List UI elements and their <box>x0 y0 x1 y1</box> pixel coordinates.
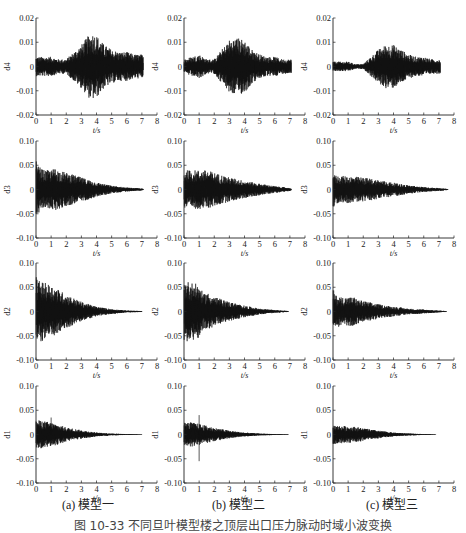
x-tick-label: 1 <box>197 361 201 371</box>
y-tick-label: 0 <box>178 430 182 440</box>
x-tick-label: 4 <box>94 239 99 249</box>
x-tick-label: 1 <box>346 116 350 126</box>
signal-trace <box>36 420 142 448</box>
x-tick-label: 5 <box>258 116 262 126</box>
x-axis-label: t/s <box>241 371 249 380</box>
x-tick-label: 6 <box>125 239 129 249</box>
x-tick-label: 0 <box>331 116 335 126</box>
x-tick-label: 6 <box>422 239 426 249</box>
x-tick-label: 1 <box>346 484 350 494</box>
signal-trace <box>184 423 288 447</box>
y-tick-label: -0.05 <box>16 209 34 219</box>
signal-trace <box>333 45 440 88</box>
y-tick-label: -0.05 <box>164 209 182 219</box>
x-tick-label: 4 <box>391 361 396 371</box>
x-tick-label: 5 <box>110 361 114 371</box>
x-tick-label: 4 <box>242 484 247 494</box>
y-tick-label: 0.10 <box>19 381 34 391</box>
x-tick-label: 6 <box>125 116 129 126</box>
x-tick-label: 3 <box>79 116 83 126</box>
x-tick-label: 0 <box>331 484 335 494</box>
y-tick-label: 0 <box>178 185 182 195</box>
y-tick-label: 0.10 <box>316 258 331 268</box>
x-tick-label: 2 <box>64 116 68 126</box>
x-tick-label: 7 <box>437 361 441 371</box>
y-tick-label: -0.10 <box>164 478 182 488</box>
x-tick-label: 1 <box>197 239 201 249</box>
x-tick-label: 0 <box>182 239 186 249</box>
y-tick-label: 0.10 <box>167 381 182 391</box>
panel-d3-c: 012345678-0.10-0.0500.050.10t/sd3 <box>299 136 456 258</box>
x-tick-label: 2 <box>212 116 216 126</box>
x-tick-label: 0 <box>34 239 38 249</box>
y-tick-label: 0 <box>30 62 34 72</box>
y-axis-label: d2 <box>150 307 160 316</box>
y-tick-label: 0.02 <box>167 13 182 23</box>
x-tick-label: 3 <box>79 361 83 371</box>
y-axis-label: d4 <box>299 62 309 71</box>
x-tick-label: 8 <box>452 116 456 126</box>
x-tick-label: 6 <box>125 484 129 494</box>
x-tick-label: 2 <box>361 239 365 249</box>
x-tick-label: 3 <box>227 116 231 126</box>
x-tick-label: 2 <box>212 484 216 494</box>
panel-d1-b: 012345678-0.10-0.0500.050.10t/sd1 <box>150 381 307 503</box>
y-tick-label: 0 <box>178 62 182 72</box>
y-tick-label: 0.02 <box>19 13 34 23</box>
x-tick-label: 8 <box>155 484 159 494</box>
x-tick-label: 3 <box>227 239 231 249</box>
x-tick-label: 8 <box>452 484 456 494</box>
y-tick-label: 0 <box>327 430 331 440</box>
x-tick-label: 4 <box>242 239 247 249</box>
y-tick-label: -0.05 <box>313 331 331 341</box>
x-tick-label: 5 <box>407 239 411 249</box>
y-axis-label: d4 <box>2 62 12 71</box>
y-tick-label: 0.05 <box>19 405 34 415</box>
x-tick-label: 6 <box>273 116 277 126</box>
y-tick-label: -0.01 <box>16 86 34 96</box>
y-tick-label: 0.05 <box>19 160 34 170</box>
x-tick-label: 1 <box>49 361 53 371</box>
y-tick-label: 0 <box>327 185 331 195</box>
x-tick-label: 1 <box>49 484 53 494</box>
y-tick-label: 0 <box>30 185 34 195</box>
y-tick-label: 0.01 <box>316 37 331 47</box>
x-tick-label: 4 <box>94 116 99 126</box>
signal-trace <box>36 277 142 341</box>
signal-trace <box>36 36 143 98</box>
x-tick-label: 7 <box>288 484 292 494</box>
x-axis-label: t/s <box>241 126 249 135</box>
x-tick-label: 6 <box>422 116 426 126</box>
x-axis-label: t/s <box>93 371 101 380</box>
x-axis-label: t/s <box>390 126 398 135</box>
subcaption-c: (c) 模型三 <box>366 495 418 513</box>
y-tick-label: 0 <box>178 307 182 317</box>
x-tick-label: 7 <box>140 239 144 249</box>
x-tick-label: 8 <box>303 116 307 126</box>
x-tick-label: 2 <box>361 361 365 371</box>
x-tick-label: 8 <box>303 361 307 371</box>
y-tick-label: 0.05 <box>316 282 331 292</box>
x-tick-label: 1 <box>346 361 350 371</box>
y-tick-label: -0.10 <box>16 478 34 488</box>
panel-d3-a: 012345678-0.10-0.0500.050.10t/sd3 <box>2 136 159 258</box>
x-tick-label: 5 <box>110 239 114 249</box>
y-tick-label: 0.02 <box>316 13 331 23</box>
figure-caption: 图 10-33 不同旦叶模型楼之顶层出口压力脉动时域小波变换 <box>0 516 466 533</box>
x-tick-label: 3 <box>79 239 83 249</box>
x-tick-label: 2 <box>64 484 68 494</box>
x-tick-label: 2 <box>361 484 365 494</box>
y-tick-label: 0.10 <box>167 136 182 146</box>
y-tick-label: -0.10 <box>16 355 34 365</box>
y-tick-label: -0.05 <box>313 209 331 219</box>
y-tick-label: -0.05 <box>164 331 182 341</box>
signal-trace <box>333 290 446 326</box>
y-tick-label: 0.10 <box>19 258 34 268</box>
x-tick-label: 3 <box>376 361 380 371</box>
signal-trace <box>333 426 436 444</box>
x-tick-label: 7 <box>437 116 441 126</box>
y-tick-label: 0.05 <box>316 405 331 415</box>
y-axis-label: d4 <box>150 62 160 71</box>
y-tick-label: -0.10 <box>16 233 34 243</box>
